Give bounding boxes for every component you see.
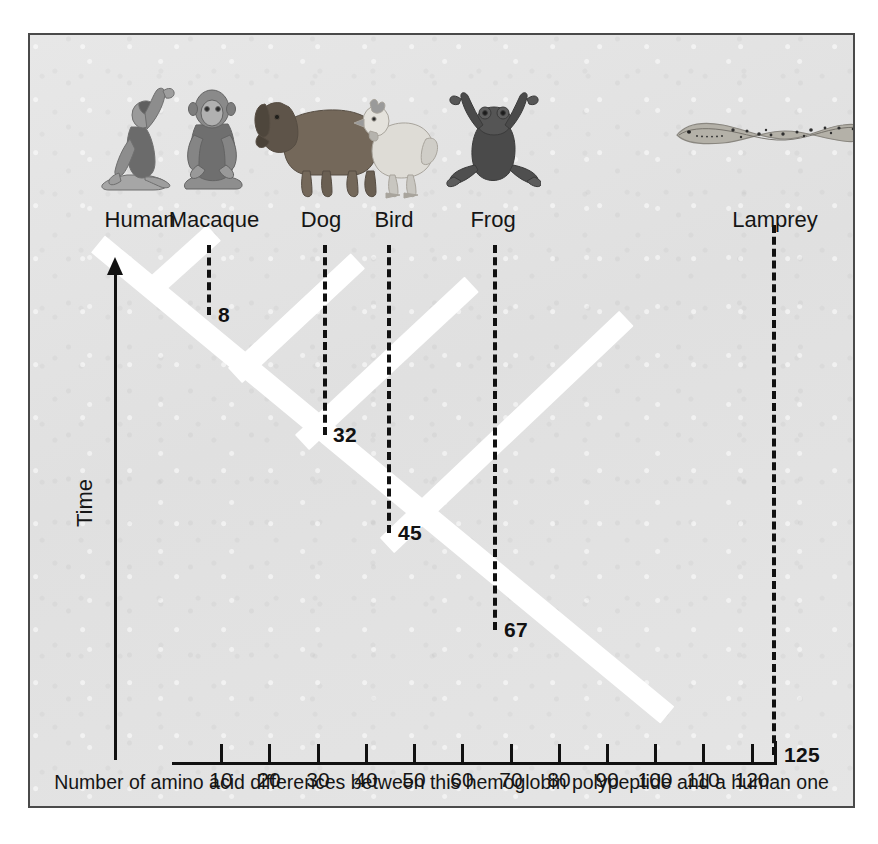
caption-strip: Number of amino acid differences between…	[30, 758, 853, 806]
drop-line-macaque	[207, 245, 211, 315]
time-axis-label: Time	[72, 443, 98, 563]
taxon-label-dog: Dog	[301, 207, 341, 233]
x-axis-caption: Number of amino acid differences between…	[54, 771, 829, 794]
taxon-label-bird: Bird	[374, 207, 413, 233]
branch-trunk-to-lamprey	[91, 236, 674, 724]
drop-line-dog	[323, 245, 327, 435]
macaque-icon	[174, 79, 254, 199]
time-axis-line	[114, 270, 117, 760]
taxon-label-frog: Frog	[470, 207, 515, 233]
value-label-bird: 45	[398, 521, 422, 545]
human-figure-icon	[97, 77, 183, 199]
value-label-dog: 32	[333, 423, 357, 447]
phylogenetic-tree-plot: 8 32 45 67 125	[30, 35, 853, 806]
value-label-macaque: 8	[218, 303, 230, 327]
figure-frame: 8 32 45 67 125	[28, 33, 855, 808]
figure-root: 8 32 45 67 125	[0, 0, 878, 844]
chicken-icon	[348, 87, 440, 199]
taxon-label-lamprey: Lamprey	[732, 207, 818, 233]
drop-line-bird	[387, 245, 391, 533]
branch-dog	[228, 253, 365, 383]
taxon-label-human: Human	[105, 207, 176, 233]
drop-line-lamprey	[772, 225, 776, 755]
taxon-label-macaque: Macaque	[169, 207, 260, 233]
time-axis-arrow-icon	[107, 257, 123, 275]
value-label-frog: 67	[504, 618, 528, 642]
frog-icon	[445, 89, 541, 199]
lamprey-icon	[671, 109, 855, 161]
drop-line-frog	[493, 245, 497, 630]
